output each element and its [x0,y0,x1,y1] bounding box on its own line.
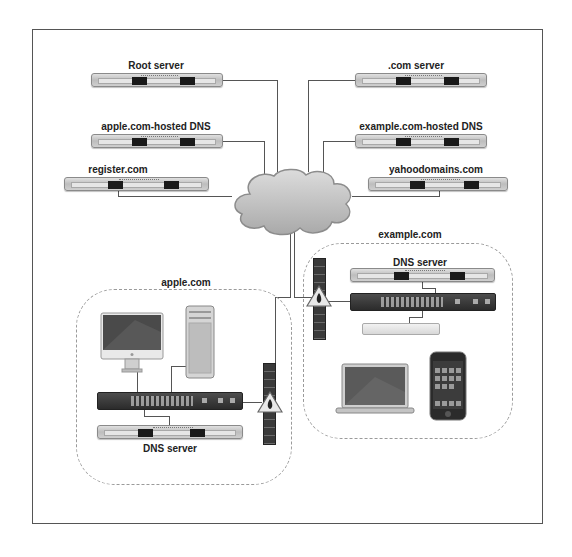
register-com-icon [64,177,209,191]
xserve-raid-icon [362,323,440,335]
link-dotcom-cloud-v [308,80,309,172]
apple-dns-server-icon [97,425,243,439]
link-applehosted-cloud-h [222,141,265,142]
link-dotcom-cloud-h [308,80,356,81]
root-server-icon [91,73,223,87]
iphone-icon [429,351,467,421]
root-server-label: Root server [106,60,206,71]
apple-dns-label: DNS server [130,443,210,454]
dotcom-server-label: .com server [366,60,466,71]
link-yahoo-cloud-h [352,196,440,197]
apple-switch-icon [97,392,243,410]
example-hosted-dns-label: example.com-hosted DNS [346,121,496,132]
register-com-label: register.com [63,164,173,175]
link-root-cloud-v [277,80,278,172]
imac-icon [100,312,164,374]
cloud-icon [228,166,358,238]
yahoodomains-label: yahoodomains.com [376,164,496,175]
yahoodomains-icon [368,177,508,191]
link-register-cloud-h [118,196,232,197]
mac-pro-icon [185,305,215,379]
dotcom-server-icon [355,73,487,87]
example-switch-icon [350,293,496,311]
example-hosted-dns-icon [355,134,487,148]
link-cloud-apple-v1 [290,232,291,298]
zone-apple-label: apple.com [136,277,236,288]
macbook-icon [335,362,415,416]
link-root-cloud-h [222,80,278,81]
apple-firewall-warning-icon [257,391,283,413]
link-cloud-example-v [294,232,295,298]
example-dns-server-icon [350,268,495,282]
zone-example-label: example.com [360,229,460,240]
link-examplehosted-cloud-h [323,141,356,142]
apple-hosted-dns-label: apple.com-hosted DNS [86,121,226,132]
apple-hosted-dns-icon [91,134,223,148]
example-dns-label: DNS server [380,257,460,268]
example-firewall-warning-icon [306,285,332,307]
link-register-cloud-v [118,190,119,197]
